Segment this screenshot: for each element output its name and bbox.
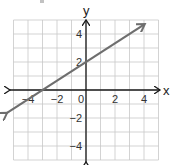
y-tick-label: −2 [69, 112, 82, 124]
y-tick-label: −4 [69, 140, 82, 152]
x-tick-label: −2 [51, 93, 64, 105]
coordinate-plane: −4−202442−2−4 x y [0, 0, 171, 165]
y-tick-label: 4 [76, 28, 82, 40]
y-axis-label: y [83, 3, 90, 18]
x-tick-label: 0 [78, 93, 84, 105]
x-tick-label: 2 [112, 93, 118, 105]
axes [10, 20, 160, 162]
x-tick-label: 4 [141, 93, 147, 105]
x-axis-label: x [163, 83, 170, 98]
